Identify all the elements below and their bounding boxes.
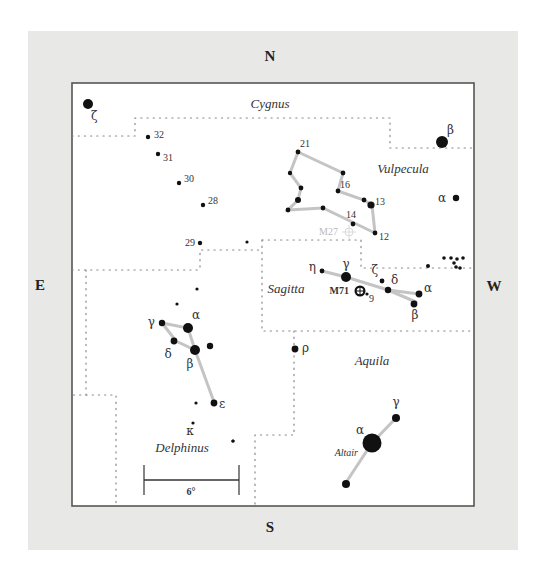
label-aquila: Aquila <box>354 353 390 368</box>
label-sge-eta: η <box>309 260 316 274</box>
label-cyg-29: 29 <box>185 237 195 248</box>
star-cyg-zeta <box>83 99 93 109</box>
label-sge-gamma: γ <box>342 257 349 271</box>
label-aql-rho: ρ <box>302 341 309 355</box>
label-cyg-31: 31 <box>163 152 173 163</box>
star-cyg-beta <box>436 136 448 148</box>
star-cyg-30 <box>177 181 181 185</box>
star-chart: N S E W Cygnus Vulpecula Sagitta Aquila … <box>0 0 542 576</box>
label-cygnus: Cygnus <box>251 96 290 111</box>
compass-north: N <box>265 48 276 64</box>
star-cyg-28 <box>201 203 205 207</box>
label-altair: Altair <box>334 447 358 458</box>
compass-south: S <box>266 519 274 535</box>
label-aql-gamma: γ <box>392 395 399 409</box>
label-del-kappa: κ <box>186 424 194 438</box>
label-sge-9: 9 <box>369 293 374 304</box>
m71-globular-cluster[interactable]: M71 <box>330 285 365 296</box>
label-sge-beta: β <box>412 308 419 322</box>
label-del-beta: β <box>187 357 194 371</box>
label-cyg-zeta: ζ <box>91 109 98 123</box>
label-sge-delta: δ <box>391 273 398 287</box>
label-vul-16: 16 <box>340 179 350 190</box>
label-del-delta: δ <box>164 347 171 361</box>
star-cyg-32 <box>146 135 150 139</box>
star-altair <box>363 434 382 453</box>
label-sagitta: Sagitta <box>268 281 305 296</box>
label-vulpecula: Vulpecula <box>377 161 429 176</box>
label-vul-13: 13 <box>375 196 385 207</box>
label-vul-21: 21 <box>300 138 310 149</box>
label-del-alpha: α <box>192 308 200 322</box>
label-vul-14: 14 <box>346 209 356 220</box>
label-delphinus: Delphinus <box>154 440 208 455</box>
label-vul-alpha: α <box>438 191 446 205</box>
label-del-gamma: γ <box>148 315 155 329</box>
label-sge-alpha: α <box>424 281 432 295</box>
label-sge-zeta: ζ <box>371 263 378 277</box>
label-m71: M71 <box>330 285 349 296</box>
star-cyg-31 <box>156 152 160 156</box>
label-cyg-28: 28 <box>208 195 218 206</box>
label-del-epsilon: ε <box>219 397 225 411</box>
star-cyg-29 <box>198 241 202 245</box>
label-cyg-32: 32 <box>154 129 164 140</box>
star-field <box>245 240 248 243</box>
label-cyg-beta: β <box>447 123 454 137</box>
scale-bar-label: 6° <box>187 486 196 497</box>
label-aql-alpha: α <box>356 423 364 437</box>
compass-east: E <box>35 277 45 293</box>
label-vul-12: 12 <box>379 231 389 242</box>
compass-west: W <box>487 278 502 294</box>
star-vul-alpha <box>453 195 459 201</box>
label-cyg-30: 30 <box>184 173 194 184</box>
label-m27: M27 <box>319 226 338 237</box>
